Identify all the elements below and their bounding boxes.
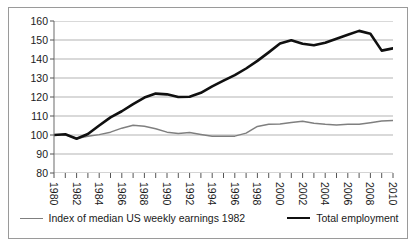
y-axis-tick-label: 100 (30, 130, 48, 141)
x-axis-tick-label: 2010 (388, 182, 399, 205)
x-axis-tick-label: 2002 (297, 182, 308, 205)
y-axis-tick-label: 90 (36, 149, 48, 160)
x-axis-tick-label: 2000 (275, 182, 286, 205)
legend-item: Index of median US weekly earnings 1982 (20, 213, 246, 224)
axes (54, 21, 393, 173)
x-axis-tick-label: 1990 (162, 182, 173, 205)
legend-label: Total employment (316, 213, 398, 224)
chart-legend: Index of median US weekly earnings 1982T… (9, 213, 409, 224)
y-axis-tick-label: 110 (31, 111, 48, 122)
x-axis-tick-label: 1992 (184, 182, 195, 205)
x-axis-tick-label: 1980 (49, 182, 60, 205)
x-axis-tick-label: 2008 (365, 182, 376, 205)
x-axis-tick-label: 1998 (252, 182, 263, 205)
plot-area: 8090100110120130140150160 19801982198419… (54, 21, 393, 173)
legend-swatch-employment (287, 217, 310, 219)
x-axis-tick-label: 1984 (94, 182, 105, 205)
legend-item: Total employment (287, 213, 398, 224)
y-axis-tick-label: 80 (36, 168, 48, 179)
x-axis-tick-label: 1994 (207, 182, 218, 205)
y-axis-tick-label: 160 (30, 16, 48, 27)
x-axis-tick-label: 2006 (343, 182, 354, 205)
legend-swatch-earnings (20, 218, 43, 219)
x-axis-tick-label: 1996 (230, 182, 241, 205)
y-axis-tick-label: 120 (30, 92, 48, 103)
y-axis-tick-label: 140 (30, 54, 48, 65)
y-axis-tick-label: 130 (30, 73, 48, 84)
x-axis-tick-label: 1986 (117, 182, 128, 205)
legend-label: Index of median US weekly earnings 1982 (49, 213, 246, 224)
x-axis-tick-label: 1982 (71, 182, 82, 205)
x-axis-tick-label: 1988 (139, 182, 150, 205)
y-axis-tick-label: 150 (30, 35, 48, 46)
chart-figure: 8090100110120130140150160 19801982198419… (8, 7, 408, 239)
x-axis-tick-label: 2004 (320, 182, 331, 205)
